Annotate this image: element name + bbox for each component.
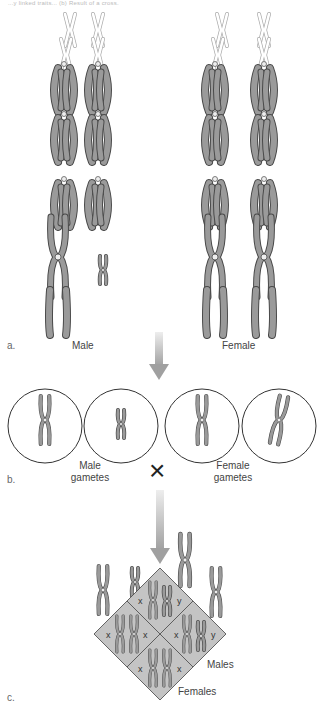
female-gamete-circle-1 <box>165 389 239 463</box>
female-label: Female <box>222 340 255 351</box>
female-chromosome-stack-1 <box>205 14 227 335</box>
diagram-graphics <box>0 0 317 709</box>
female-gametes-line1: Female <box>208 460 258 472</box>
panel-a-label: a. <box>7 340 15 351</box>
male-chromosome-stack-1 <box>49 14 75 335</box>
arrow-down-icon-2 <box>150 490 170 564</box>
male-gamete-circle-1 <box>8 389 82 463</box>
males-label: Males <box>207 659 234 670</box>
male-gametes-line2: gametes <box>70 472 110 484</box>
cell-right-right-allele: y <box>211 630 216 640</box>
panel-b-label: b. <box>7 474 15 485</box>
female-gametes-label: Female gametes <box>208 460 258 484</box>
female-gamete-circle-2 <box>242 389 316 463</box>
male-chromosome-stack-2 <box>88 14 108 284</box>
cell-bottom-left-allele: x <box>138 664 143 674</box>
panel-c-label: c. <box>7 692 15 703</box>
cell-top-left-allele: x <box>138 596 143 606</box>
female-chromosome-stack-2 <box>254 14 274 335</box>
cell-right-left-allele: x <box>174 630 179 640</box>
cell-left-left-allele: x <box>106 630 111 640</box>
male-label: Male <box>72 340 94 351</box>
cell-top-right-allele: y <box>177 596 182 606</box>
male-gametes-label: Male gametes <box>70 460 110 484</box>
females-label: Females <box>178 686 216 697</box>
arrow-down-icon <box>149 332 169 380</box>
female-gametes-line2: gametes <box>208 472 258 484</box>
cell-bottom-right-allele: x <box>177 664 182 674</box>
cell-left-right-allele: x <box>143 630 148 640</box>
male-gamete-circle-2 <box>84 389 158 463</box>
cross-symbol: × <box>149 455 165 487</box>
male-gametes-line1: Male <box>70 460 110 472</box>
punnett-square <box>94 568 226 700</box>
